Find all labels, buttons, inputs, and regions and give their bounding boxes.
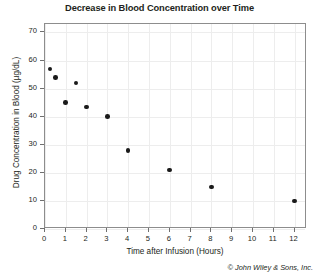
x-axis-tick-label: 10 (242, 234, 262, 243)
x-axis-tick-label: 1 (55, 234, 75, 243)
y-gridline (45, 229, 305, 230)
data-point (292, 199, 297, 204)
y-axis-tick (40, 200, 44, 201)
y-axis-tick-label: 70 (12, 26, 37, 35)
data-point (74, 81, 79, 86)
y-axis-tick (40, 144, 44, 145)
x-axis-tick (106, 228, 107, 232)
x-axis-tick-label: 3 (96, 234, 116, 243)
data-point (48, 67, 53, 72)
x-axis-tick (294, 228, 295, 232)
x-axis-tick (86, 228, 87, 232)
x-axis-tick (252, 228, 253, 232)
data-series-points (45, 24, 305, 227)
x-axis-tick-label: 6 (159, 234, 179, 243)
data-point (53, 75, 58, 80)
x-axis-tick-label: 7 (180, 234, 200, 243)
y-axis-tick (40, 88, 44, 89)
data-point (63, 100, 68, 105)
x-axis-tick (169, 228, 170, 232)
y-axis-tick-label: 0 (12, 223, 37, 232)
x-axis-tick-label: 9 (221, 234, 241, 243)
x-axis-tick (273, 228, 274, 232)
data-point (209, 185, 214, 190)
y-axis-tick (40, 31, 44, 32)
data-point (126, 148, 131, 153)
x-axis-tick (148, 228, 149, 232)
y-axis-tick (40, 228, 44, 229)
plot-area (44, 23, 306, 228)
x-axis-tick (44, 228, 45, 232)
x-axis-tick (231, 228, 232, 232)
y-axis-title: Drug Concentration in Blood (µg/dL) (12, 43, 21, 203)
x-axis-title: Time after Infusion (Hours) (44, 247, 306, 256)
x-axis-tick-label: 2 (76, 234, 96, 243)
x-axis-tick (210, 228, 211, 232)
x-axis-tick-label: 12 (284, 234, 304, 243)
x-axis-tick-label: 11 (263, 234, 283, 243)
x-axis-tick (127, 228, 128, 232)
x-axis-tick-label: 0 (34, 234, 54, 243)
chart-figure: Decrease in Blood Concentration over Tim… (0, 0, 319, 275)
x-axis-tick-label: 5 (138, 234, 158, 243)
data-point (167, 168, 172, 173)
x-axis-tick (190, 228, 191, 232)
x-axis-tick-label: 4 (117, 234, 137, 243)
copyright-notice: © John Wiley & Sons, Inc. (228, 263, 313, 272)
y-axis-tick (40, 172, 44, 173)
x-axis-tick-label: 8 (200, 234, 220, 243)
chart-title: Decrease in Blood Concentration over Tim… (0, 3, 319, 13)
data-point (84, 105, 89, 110)
y-axis-tick (40, 116, 44, 117)
y-axis-tick (40, 60, 44, 61)
data-point (105, 114, 110, 119)
x-axis-tick (65, 228, 66, 232)
